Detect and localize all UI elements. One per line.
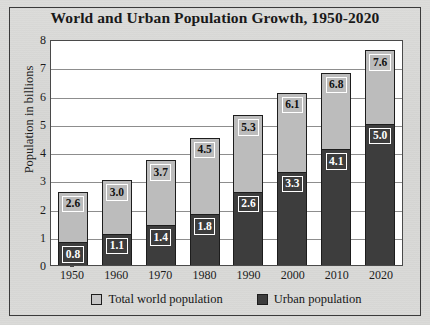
- bar-segment-urban: 1.1: [102, 234, 132, 265]
- legend-item: Urban population: [257, 292, 362, 307]
- plot-area: 2.60.83.01.13.71.44.51.85.32.66.13.36.84…: [50, 40, 403, 266]
- y-axis-tick: 7: [40, 61, 46, 76]
- bar-value-label-total: 3.0: [106, 184, 127, 201]
- legend-swatch-urban: [257, 294, 268, 305]
- bar-value-label-total: 6.1: [282, 97, 303, 114]
- x-axis-tick: 1980: [189, 268, 219, 284]
- bar-value-label-urban: 3.3: [282, 176, 303, 193]
- bar-segment-total: 3.7: [146, 160, 176, 225]
- bar-value-label-total: 4.5: [194, 142, 215, 159]
- bar-value-label-urban: 0.8: [62, 246, 83, 263]
- y-axis-tick-mark: [70, 266, 74, 267]
- y-axis-tick: 8: [40, 33, 46, 48]
- x-axis-tick-labels: 19501960197019801990200020102020: [50, 268, 403, 284]
- bar-column: 7.65.0: [365, 41, 395, 265]
- bar-column: 2.60.8: [58, 41, 88, 265]
- bar-column: 5.32.6: [233, 41, 263, 265]
- y-axis-tick: 0: [40, 259, 46, 274]
- bar-column: 6.13.3: [277, 41, 307, 265]
- x-axis-tick: 1950: [57, 268, 87, 284]
- bar-segment-total: 3.0: [102, 180, 132, 234]
- bar-value-label-total: 3.7: [150, 164, 171, 181]
- bar-segment-total: 6.8: [321, 73, 351, 149]
- bar-value-label-total: 6.8: [326, 77, 347, 94]
- bar-segment-urban: 4.1: [321, 149, 351, 265]
- bar-column: 4.51.8: [190, 41, 220, 265]
- bar-value-label-urban: 1.4: [150, 229, 171, 246]
- bar-value-label-urban: 2.6: [238, 196, 259, 213]
- bar-segment-urban: 5.0: [365, 124, 395, 265]
- bar-column: 3.01.1: [102, 41, 132, 265]
- bar-value-label-urban: 4.1: [326, 153, 347, 170]
- bar-value-label-urban: 1.1: [106, 238, 127, 255]
- bar-segment-total: 4.5: [190, 138, 220, 214]
- x-axis-tick: 1970: [145, 268, 175, 284]
- bar-segment-urban: 1.8: [190, 214, 220, 265]
- bar-segment-total: 7.6: [365, 50, 395, 123]
- bar-group: 2.60.83.01.13.71.44.51.85.32.66.13.36.84…: [51, 41, 402, 265]
- y-axis-title: Population in billions: [22, 40, 37, 200]
- x-axis-tick: 2010: [322, 268, 352, 284]
- bar-segment-total: 6.1: [277, 93, 307, 172]
- bar-value-label-urban: 1.8: [194, 218, 215, 235]
- y-axis-tick: 6: [40, 89, 46, 104]
- y-axis-tick: 5: [40, 117, 46, 132]
- bar-segment-urban: 3.3: [277, 172, 307, 265]
- bar-value-label-total: 2.6: [62, 196, 83, 213]
- bar-value-label-total: 7.6: [369, 54, 390, 71]
- bar-segment-total: 2.6: [58, 192, 88, 243]
- x-axis-tick: 1960: [101, 268, 131, 284]
- bar-column: 3.71.4: [146, 41, 176, 265]
- bar-segment-urban: 0.8: [58, 242, 88, 265]
- y-axis-tick: 4: [40, 146, 46, 161]
- bar-value-label-urban: 5.0: [369, 128, 390, 145]
- y-axis-tick: 2: [40, 202, 46, 217]
- bar-column: 6.84.1: [321, 41, 351, 265]
- bar-segment-total: 5.3: [233, 115, 263, 191]
- bar-value-label-total: 5.3: [238, 119, 259, 136]
- legend-item: Total world population: [91, 292, 222, 307]
- legend-label: Urban population: [274, 292, 362, 307]
- x-axis-tick: 2000: [278, 268, 308, 284]
- legend-swatch-total: [91, 294, 102, 305]
- chart-legend: Total world populationUrban population: [50, 292, 403, 307]
- bar-segment-urban: 1.4: [146, 225, 176, 265]
- bar-segment-urban: 2.6: [233, 192, 263, 265]
- chart-title: World and Urban Population Growth, 1950-…: [9, 9, 421, 27]
- y-axis-tick: 3: [40, 174, 46, 189]
- legend-label: Total world population: [108, 292, 222, 307]
- y-axis-tick: 1: [40, 230, 46, 245]
- x-axis-tick: 2020: [366, 268, 396, 284]
- x-axis-tick: 1990: [234, 268, 264, 284]
